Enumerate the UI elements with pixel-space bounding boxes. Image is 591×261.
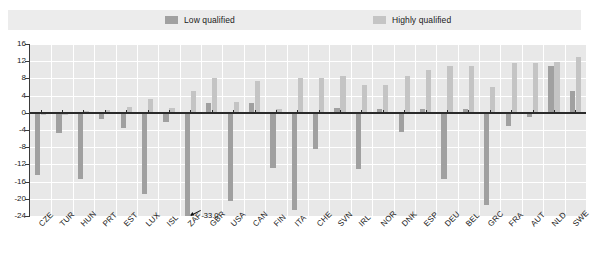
- legend-swatch-highly-qualified: [373, 16, 386, 24]
- x-axis-tick-mark: [83, 110, 84, 114]
- bar-highly-qualified: [383, 85, 388, 113]
- bar-low-qualified: [228, 113, 233, 201]
- x-axis-tick-mark: [297, 110, 298, 114]
- x-axis-tick-mark: [447, 110, 448, 114]
- chart-legend: Low qualified Highly qualified: [8, 10, 581, 30]
- legend-label-highly-qualified: Highly qualified: [392, 15, 451, 25]
- bar-low-qualified: [292, 113, 297, 210]
- bar-low-qualified: [78, 113, 83, 180]
- bar-low-qualified: [441, 113, 446, 180]
- x-axis-tick-mark: [490, 110, 491, 114]
- bar-low-qualified: [99, 113, 104, 119]
- bar-highly-qualified: [490, 87, 495, 113]
- bar-series-container: [30, 44, 586, 216]
- bar-low-qualified: [56, 113, 61, 134]
- bar-highly-qualified: [512, 63, 517, 112]
- bar-highly-qualified: [405, 76, 410, 113]
- bar-low-qualified: [121, 113, 126, 128]
- x-axis-tick-mark: [255, 110, 256, 114]
- x-axis-tick-mark: [361, 110, 362, 114]
- zero-baseline: [30, 112, 586, 114]
- plot-area: -33.0: [30, 44, 586, 216]
- x-axis-tick-mark: [319, 110, 320, 114]
- bar-highly-qualified: [426, 70, 431, 113]
- x-axis-tick-mark: [276, 110, 277, 114]
- x-axis-tick-mark: [212, 110, 213, 114]
- bar-highly-qualified: [212, 78, 217, 112]
- bar-highly-qualified: [554, 62, 559, 113]
- x-axis-tick-mark: [426, 110, 427, 114]
- x-axis-tick-mark: [62, 110, 63, 114]
- x-axis-tick-mark: [554, 110, 555, 114]
- x-axis-tick-mark: [148, 110, 149, 114]
- bar-highly-qualified: [255, 81, 260, 113]
- bar-low-qualified: [548, 66, 553, 113]
- bar-highly-qualified: [298, 78, 303, 112]
- x-axis-tick-mark: [190, 110, 191, 114]
- bar-highly-qualified: [148, 99, 153, 113]
- bar-highly-qualified: [469, 66, 474, 113]
- x-axis-tick-mark: [169, 110, 170, 114]
- x-axis-tick-mark: [575, 110, 576, 114]
- x-axis-tick-mark: [233, 110, 234, 114]
- x-axis-tick-mark: [126, 110, 127, 114]
- plot-area-wrapper: 1612840-4-8-12-16-20-24 -33.0: [0, 42, 589, 222]
- x-axis-tick-mark: [340, 110, 341, 114]
- bar-highly-qualified: [362, 85, 367, 113]
- bar-low-qualified: [570, 91, 575, 113]
- legend-item-highly-qualified: Highly qualified: [373, 15, 451, 25]
- x-axis-tick-mark: [404, 110, 405, 114]
- bar-low-qualified: [506, 113, 511, 126]
- x-axis-tick-mark: [511, 110, 512, 114]
- bar-highly-qualified: [191, 91, 196, 113]
- bar-highly-qualified: [533, 63, 538, 112]
- bar-low-qualified: [270, 113, 275, 168]
- bar-highly-qualified: [340, 76, 345, 113]
- x-axis-category-labels: CZETURHUNPRTESTLUXISLZAFGBRUSACANFINITAC…: [30, 222, 586, 261]
- bar-low-qualified: [35, 113, 40, 175]
- bar-highly-qualified: [319, 78, 324, 113]
- x-axis-tick-mark: [383, 110, 384, 114]
- bar-low-qualified: [185, 113, 190, 216]
- y-axis-tick-labels: 1612840-4-8-12-16-20-24: [0, 42, 26, 222]
- legend-label-low-qualified: Low qualified: [184, 15, 235, 25]
- bar-low-qualified: [313, 113, 318, 150]
- legend-swatch-low-qualified: [165, 16, 178, 24]
- bar-low-qualified: [142, 113, 147, 195]
- x-axis-tick-mark: [105, 110, 106, 114]
- bar-highly-qualified: [576, 57, 581, 113]
- bar-low-qualified: [399, 113, 404, 132]
- legend-item-low-qualified: Low qualified: [165, 15, 235, 25]
- bar-low-qualified: [163, 113, 168, 122]
- bar-low-qualified: [356, 113, 361, 169]
- x-axis-tick-mark: [533, 110, 534, 114]
- x-axis-tick-mark: [41, 110, 42, 114]
- bar-highly-qualified: [447, 66, 452, 113]
- bar-low-qualified: [484, 113, 489, 205]
- x-axis-tick-mark: [468, 110, 469, 114]
